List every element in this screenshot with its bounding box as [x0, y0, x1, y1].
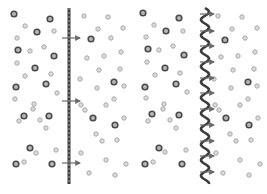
- large-solute-particle: [163, 28, 169, 34]
- small-solute-particle: [213, 103, 217, 107]
- wavy-membrane: [201, 8, 209, 184]
- large-solute-particle: [49, 161, 55, 167]
- small-solute-particle: [229, 86, 233, 90]
- small-solute-particle: [121, 26, 125, 30]
- small-solute-particle: [38, 118, 42, 122]
- small-solute-particle: [28, 49, 32, 53]
- small-solute-particle: [31, 107, 35, 111]
- large-solute-particle: [176, 112, 182, 118]
- small-solute-particle: [252, 67, 256, 71]
- membrane-diffusion-diagram: [0, 0, 267, 194]
- large-solute-particle: [181, 52, 187, 58]
- membranes-layer: [69, 8, 209, 184]
- small-solute-particle: [79, 151, 83, 155]
- small-solute-particle: [240, 15, 244, 19]
- small-solute-particle: [34, 151, 38, 155]
- large-solute-particle: [156, 145, 162, 151]
- small-solute-particle: [106, 15, 110, 19]
- small-solute-particle: [219, 55, 223, 59]
- large-solute-particle: [32, 65, 38, 71]
- small-solute-particle: [243, 36, 247, 40]
- small-solute-particle: [94, 132, 98, 136]
- small-solute-particle: [247, 173, 251, 177]
- small-solute-particle: [113, 173, 117, 177]
- small-solute-particle: [122, 84, 126, 88]
- large-solute-particle: [13, 84, 19, 90]
- small-solute-particle: [22, 160, 26, 164]
- small-solute-particle: [174, 126, 178, 130]
- small-solute-particle: [15, 36, 19, 40]
- small-solute-particle: [112, 97, 116, 101]
- large-solute-particle: [112, 122, 118, 128]
- large-solute-particle: [27, 145, 33, 151]
- small-solute-particle: [214, 151, 218, 155]
- small-solute-particle: [168, 118, 172, 122]
- small-solute-particle: [255, 84, 259, 88]
- small-solute-particle: [181, 29, 185, 33]
- large-solute-particle: [176, 15, 182, 21]
- small-solute-particle: [221, 171, 225, 175]
- small-solute-particle: [109, 36, 113, 40]
- small-solute-particle: [146, 119, 150, 123]
- small-solute-particle: [185, 90, 189, 94]
- large-solute-particle: [13, 161, 19, 167]
- small-solute-particle: [55, 91, 59, 95]
- small-solute-particle: [246, 97, 250, 101]
- small-solute-particle: [79, 103, 83, 107]
- small-solute-particle: [95, 86, 99, 90]
- small-solute-particle: [152, 23, 156, 27]
- small-solute-particle: [153, 73, 157, 77]
- small-solute-particle: [52, 29, 56, 33]
- large-solute-particle: [142, 161, 148, 167]
- small-solute-particle: [96, 27, 100, 31]
- small-solute-particle: [83, 108, 87, 112]
- small-solute-particle: [151, 160, 155, 164]
- small-solute-particle: [32, 102, 36, 106]
- small-solute-particle: [124, 162, 128, 166]
- large-solute-particle: [11, 11, 17, 17]
- small-solute-particle: [87, 171, 91, 175]
- small-solute-particle: [23, 74, 27, 78]
- small-solute-particle: [115, 138, 119, 142]
- small-solute-particle: [100, 139, 104, 143]
- small-solute-particle: [15, 61, 19, 65]
- small-solute-particle: [216, 14, 220, 18]
- small-solute-particle: [184, 148, 188, 152]
- small-solute-particle: [258, 162, 262, 166]
- small-solute-particle: [23, 24, 27, 28]
- large-solute-particle: [21, 113, 27, 119]
- large-solute-particle: [222, 37, 228, 43]
- small-solute-particle: [104, 103, 108, 107]
- small-solute-particle: [13, 97, 17, 101]
- small-solute-particle: [238, 103, 242, 107]
- large-solute-particle: [246, 122, 252, 128]
- small-solute-particle: [162, 102, 166, 106]
- small-solute-particle: [82, 14, 86, 18]
- small-solute-particle: [178, 71, 182, 75]
- large-solute-particle: [15, 47, 21, 53]
- large-solute-particle: [245, 79, 251, 85]
- small-solute-particle: [42, 45, 46, 49]
- small-solute-particle: [231, 68, 235, 72]
- small-solute-particle: [78, 77, 82, 81]
- small-solute-particle: [157, 48, 161, 52]
- large-particles-layer: [11, 10, 252, 167]
- large-solute-particle: [47, 16, 53, 22]
- large-solute-particle: [149, 111, 155, 117]
- small-solute-particle: [163, 150, 167, 154]
- small-solute-particle: [236, 54, 240, 58]
- large-solute-particle: [88, 36, 94, 42]
- small-solute-particle: [44, 126, 48, 130]
- small-solute-particle: [249, 138, 253, 142]
- large-solute-particle: [46, 113, 52, 119]
- small-solute-particle: [234, 139, 238, 143]
- small-solute-particle: [217, 108, 221, 112]
- large-solute-particle: [179, 161, 185, 167]
- small-solute-particle: [104, 158, 108, 162]
- diagram-canvas: [0, 0, 267, 194]
- small-solute-particle: [144, 96, 148, 100]
- small-solute-particle: [144, 35, 148, 39]
- small-solute-particle: [230, 27, 234, 31]
- large-solute-particle: [142, 84, 148, 90]
- small-solute-particle: [256, 116, 260, 120]
